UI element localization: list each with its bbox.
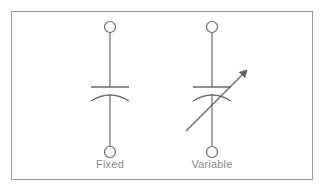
capacitor-symbols-figure: Fixed Variable <box>0 0 325 193</box>
figure-border <box>12 12 313 180</box>
variable-bottom-terminal-icon <box>207 147 218 158</box>
variable-top-terminal-icon <box>207 22 218 33</box>
schematic-canvas <box>0 0 325 193</box>
fixed-bottom-terminal-icon <box>105 147 116 158</box>
fixed-top-terminal-icon <box>105 22 116 33</box>
variable-arrow-shaft <box>186 73 245 132</box>
fixed-capacitor-symbol <box>91 22 129 158</box>
fixed-capacitor-label: Fixed <box>96 158 124 170</box>
variable-capacitor-label: Variable <box>191 158 232 170</box>
variable-capacitor-symbol <box>186 22 247 158</box>
